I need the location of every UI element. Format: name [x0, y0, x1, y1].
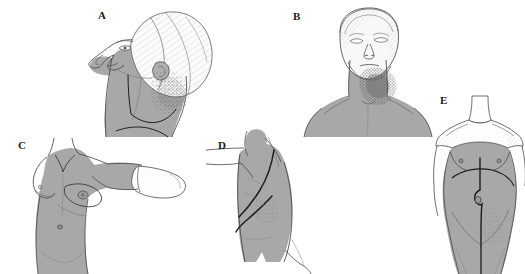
panel-a-illustration: [89, 12, 212, 137]
panel-e-arm-left: [434, 146, 438, 216]
panel-c-abdomen-shading: [43, 207, 84, 257]
panel-label-a: A: [98, 10, 106, 21]
panel-c-right-nipple: [81, 193, 85, 197]
panel-c-illustration: [33, 138, 185, 274]
panel-d-hip-outline: [285, 250, 311, 274]
panel-a-brow: [116, 41, 133, 43]
panel-label-e: E: [440, 95, 448, 106]
panel-e-nipple-right: [497, 159, 501, 163]
panel-d-arm-lower-edge: [206, 163, 241, 165]
panel-e-illustration: [434, 96, 525, 274]
panel-b-illustration: [304, 8, 432, 137]
panel-label-d: D: [218, 140, 226, 151]
panel-label-c: C: [18, 140, 26, 151]
illustration-canvas: [0, 0, 525, 274]
figure-plate: A B C D E: [0, 0, 525, 274]
panel-e-umbilicus: [475, 197, 481, 204]
panel-d-arm-stub: [245, 129, 267, 154]
panel-label-b: B: [293, 11, 301, 22]
panel-b-eye-right: [374, 38, 388, 43]
panel-c-forearm-hand: [132, 166, 186, 198]
panel-a-pupil: [124, 47, 127, 50]
panel-e-neck: [469, 96, 491, 123]
panel-e-nipple-left: [459, 159, 463, 163]
